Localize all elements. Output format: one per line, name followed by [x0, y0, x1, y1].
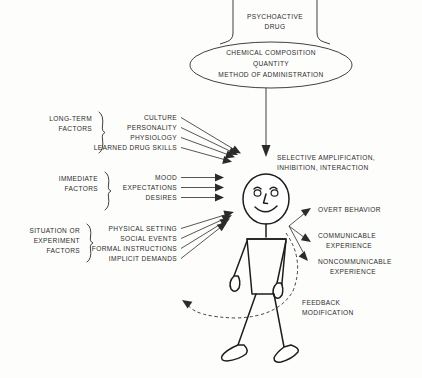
feedback-line1: FEEDBACK	[302, 299, 341, 306]
selective-amplification-label: SELECTIVE AMPLIFICATION, INHIBITION, INT…	[277, 154, 375, 171]
top-box-label-line1: PSYCHOACTIVE	[247, 13, 303, 20]
psychoactive-drug-model-diagram: PSYCHOACTIVE DRUG CHEMICAL COMPOSITION Q…	[0, 0, 422, 378]
long-term-item-3: LEARNED DRUG SKILLS	[94, 144, 177, 151]
stick-figure-person	[222, 174, 299, 362]
situation-factors-label-line1: SITUATION OR	[29, 227, 80, 234]
immediate-factors-label-line1: IMMEDIATE	[59, 175, 99, 182]
immediate-factors-label-line2: FACTORS	[65, 185, 99, 192]
immediate-item-0: MOOD	[155, 174, 177, 181]
long-term-factors-label-line1: LONG-TERM	[49, 115, 92, 122]
situation-item-3: IMPLICIT DEMANDS	[109, 255, 177, 262]
group-situation-or-experiment-factors: SITUATION OR EXPERIMENT FACTORS PHYSICAL…	[29, 211, 234, 263]
immediate-item-2: DESIRES	[146, 194, 178, 201]
output-1-line2: EXPERIENCE	[326, 242, 372, 249]
output-0-line1: OVERT BEHAVIOR	[318, 206, 381, 213]
output-1-line1: COMMUNICABLE	[318, 232, 376, 239]
situation-factors-label-line3: FACTORS	[47, 247, 81, 254]
group-long-term-factors: LONG-TERM FACTORS CULTURE PERSONALITY PH…	[49, 112, 241, 164]
diagram-canvas: PSYCHOACTIVE DRUG CHEMICAL COMPOSITION Q…	[0, 0, 422, 378]
drug-properties-ellipse: CHEMICAL COMPOSITION QUANTITY METHOD OF …	[190, 42, 352, 88]
ellipse-line3: METHOD OF ADMINISTRATION	[218, 71, 323, 78]
long-term-factors-label-line2: FACTORS	[59, 125, 93, 132]
group-immediate-factors: IMMEDIATE FACTORS MOOD EXPECTATIONS DESI…	[59, 172, 224, 210]
immediate-item-1: EXPECTATIONS	[123, 184, 177, 191]
immediate-arrows	[181, 174, 224, 202]
situation-factors-label-line2: EXPERIMENT	[34, 237, 80, 244]
long-term-arrows	[181, 118, 241, 164]
ellipse-line2: QUANTITY	[253, 60, 289, 68]
situation-arrows	[181, 211, 234, 259]
process-line2: INHIBITION, INTERACTION	[277, 164, 369, 171]
situation-item-0: PHYSICAL SETTING	[109, 225, 177, 232]
psychoactive-drug-box: PSYCHOACTIVE DRUG	[220, 0, 330, 44]
situation-item-1: SOCIAL EVENTS	[120, 235, 177, 242]
long-term-item-1: PERSONALITY	[127, 124, 177, 131]
ellipse-line1: CHEMICAL COMPOSITION	[226, 49, 316, 56]
process-line1: SELECTIVE AMPLIFICATION,	[277, 154, 375, 161]
output-arrows	[289, 208, 311, 261]
long-term-item-2: PHYSIOLOGY	[130, 134, 177, 141]
feedback-line2: MODIFICATION	[302, 309, 354, 316]
output-2-line2: EXPERIENCE	[330, 268, 376, 275]
top-box-label-line2: DRUG	[265, 23, 286, 30]
long-term-item-0: CULTURE	[144, 114, 177, 121]
situation-item-2: FORMAL INSTRUCTIONS	[92, 245, 177, 252]
output-labels: OVERT BEHAVIOR COMMUNICABLE EXPERIENCE N…	[318, 206, 392, 275]
drug-to-organism-arrow	[262, 88, 271, 157]
output-2-line1: NONCOMMUNICABLE	[318, 258, 392, 265]
